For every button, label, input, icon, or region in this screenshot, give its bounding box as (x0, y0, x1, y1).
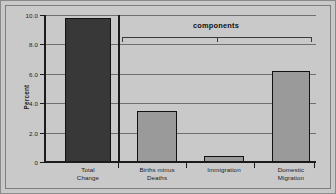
bar-domestic-migration[interactable] (272, 71, 310, 162)
x-label-domestic-migration-line2: Migration (261, 174, 321, 182)
chart-frame: Percent 10.0 8.0 6.0 4.0 2.0 0 (0, 0, 336, 194)
plot-area: 10.0 8.0 6.0 4.0 2.0 0 (44, 15, 316, 163)
y-tick-mark-10 (40, 15, 45, 16)
x-label-total-change-line2: Change (58, 174, 118, 182)
x-label-births-minus-deaths-line1: Births minus (127, 166, 187, 174)
category-separator-line (118, 15, 120, 163)
y-tick-mark-4 (40, 103, 45, 104)
x-label-births-minus-deaths: Births minus Deaths (127, 166, 187, 182)
x-axis-line (44, 161, 316, 163)
gridline-10 (44, 15, 316, 16)
y-tick-mark-8 (40, 44, 45, 45)
y-tick-label-10: 10.0 (26, 12, 38, 19)
x-label-total-change: Total Change (58, 166, 118, 182)
x-axis-labels: Total Change Births minus Deaths Immigra… (44, 166, 316, 188)
chart-plot-container: Percent 10.0 8.0 6.0 4.0 2.0 0 (5, 5, 331, 189)
y-tick-label-6: 6.0 (29, 70, 38, 77)
x-label-total-change-line1: Total (58, 166, 118, 174)
y-tick-label-4: 4.0 (29, 100, 38, 107)
x-label-domestic-migration: Domestic Migration (261, 166, 321, 182)
y-tick-label-0: 0 (34, 159, 38, 166)
bar-births-minus-deaths[interactable] (137, 111, 177, 163)
bar-total-change[interactable] (65, 18, 111, 162)
y-tick-label-2: 2.0 (29, 129, 38, 136)
y-axis-line (44, 15, 46, 163)
x-label-domestic-migration-line1: Domestic (261, 166, 321, 174)
x-label-immigration: Immigration (194, 166, 254, 174)
y-tick-mark-2 (40, 133, 45, 134)
y-tick-mark-6 (40, 74, 45, 75)
y-tick-label-8: 8.0 (29, 41, 38, 48)
x-label-immigration-line1: Immigration (194, 166, 254, 174)
x-label-births-minus-deaths-line2: Deaths (127, 174, 187, 182)
